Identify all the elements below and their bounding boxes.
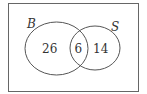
- set-b-label: B: [26, 17, 36, 31]
- venn-diagram: B S 26 6 14: [0, 0, 147, 94]
- set-s-label: S: [111, 20, 119, 34]
- intersection-count: 6: [75, 42, 83, 56]
- s-only-count: 14: [93, 42, 109, 56]
- b-only-count: 26: [42, 42, 57, 56]
